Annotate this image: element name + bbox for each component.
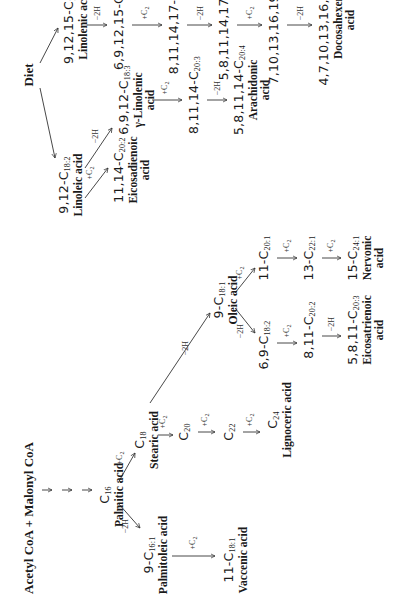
- title-acetyl-coa-malonyl-coa: Acetyl CoA + Malonyl CoA: [22, 442, 36, 594]
- node-c18-2o: 6,9-C18:2: [257, 320, 272, 369]
- acid-name-cont: acid: [139, 136, 151, 203]
- formula: 4,7,10,13,16,19-C22:6: [317, 0, 332, 86]
- formula: 8,11,14,17-C20:4: [167, 0, 182, 74]
- node-c20-2l: 11,14-C20:2Eicosadienoicacid: [112, 136, 152, 203]
- node-c18-4: 6,9,12,15-C18:4: [112, 0, 127, 70]
- formula: 15-C24:1: [346, 236, 361, 281]
- acid-name: Docosahexenoic: [332, 0, 344, 86]
- formula: 5,8,11,14,17-C20:5: [217, 0, 232, 80]
- formula: 11-C20:1: [257, 236, 272, 281]
- acid-name: Arachidonic: [247, 45, 259, 135]
- node-c18-3a: 9,12,15-C18:3Linolenic acid: [62, 0, 89, 64]
- reaction-arrow: [150, 313, 210, 403]
- formula: 6,9,12-C18:3: [117, 65, 132, 135]
- formula: C18: [133, 411, 148, 469]
- desaturation-label: −2H: [327, 317, 336, 331]
- elongation-label: +C2: [200, 414, 211, 427]
- formula: 9-C16:1: [142, 516, 157, 594]
- desaturation-label: −2H: [296, 6, 305, 20]
- node-c20-4: 8,11,14,17-C20:4: [167, 0, 182, 74]
- node-c18-1o: 9-C18:1Oleic acid: [212, 276, 239, 325]
- node-c18-3g: 6,9,12-C18:3γ-Linolenicacid: [117, 65, 157, 135]
- node-c22-1: 13-C22:1: [302, 236, 317, 281]
- formula: 11-C18:1: [222, 527, 237, 593]
- node-c20-5: 5,8,11,14,17-C20:5: [217, 0, 232, 80]
- formula: 9-C18:1: [212, 276, 227, 325]
- node-c20: C20: [177, 423, 192, 440]
- acid-name-cont: acid: [144, 65, 156, 135]
- acid-name: Palmitic acid: [113, 463, 125, 527]
- reaction-arrow: [40, 88, 55, 158]
- acid-name: Vaccenic acid: [237, 527, 249, 593]
- acid-name-cont: acid: [344, 0, 356, 86]
- desaturation-label: −2H: [213, 81, 222, 95]
- acid-name-cont: acid: [373, 236, 385, 281]
- node-c18-1v: 11-C18:1Vaccenic acid: [222, 527, 249, 593]
- node-c16: C16Palmitic acid: [98, 463, 125, 527]
- node-c24-1: 15-C24:1Nervonicacid: [346, 236, 386, 281]
- formula: C24: [266, 382, 281, 458]
- formula: 9,12-C18:2: [57, 154, 72, 217]
- diet-source: Diet: [22, 63, 36, 86]
- elongation-label: +C2: [115, 452, 126, 465]
- fatty-acid-pathway-diagram: Acetyl CoA + Malonyl CoA Diet C16Palmiti…: [0, 0, 400, 598]
- node-c16-1: 9-C16:1Palmitoleic acid: [142, 516, 169, 594]
- elongation-label: +C2: [160, 82, 171, 95]
- node-c18: C18Stearic acid: [133, 411, 160, 469]
- acid-name: Oleic acid: [227, 276, 239, 325]
- desaturation-label: −2H: [121, 519, 130, 533]
- acid-name: Nervonic: [361, 236, 373, 281]
- formula: 6,9,12,15-C18:4: [112, 0, 127, 70]
- formula: 8,11,14-C20:3: [187, 56, 202, 134]
- formula: 5,8,11,14-C20:4: [232, 45, 247, 135]
- acid-name: Linolenic acid: [77, 0, 89, 64]
- elongation-label: +C2: [245, 7, 256, 20]
- elongation-label: +C2: [245, 414, 256, 427]
- desaturation-label: −2H: [196, 6, 205, 20]
- node-c22-5: 7,10,13,16,19-C22:5: [267, 0, 282, 84]
- acid-name-cont: acid: [373, 295, 385, 365]
- node-c22-6: 4,7,10,13,16,19-C22:6Docosahexenoicacid: [317, 0, 357, 86]
- desaturation-label: −2H: [93, 6, 102, 20]
- elongation-label: +C2: [326, 240, 337, 253]
- node-c20-2o: 8,11-C20:2: [302, 301, 317, 358]
- elongation-label: +C2: [282, 325, 293, 338]
- formula: C16: [98, 463, 113, 527]
- acid-name: Lignoceric acid: [281, 382, 293, 458]
- elongation-label: +C2: [85, 167, 96, 180]
- formula: 8,11-C20:2: [302, 301, 317, 358]
- elongation-label: +C2: [188, 537, 199, 550]
- formula: 7,10,13,16,19-C22:5: [267, 0, 282, 84]
- elongation-label: +C2: [282, 240, 293, 253]
- elongation-label: +C2: [140, 7, 151, 20]
- node-c20-1: 11-C20:1: [257, 236, 272, 281]
- acid-name: Eicosadienoic: [127, 136, 139, 203]
- formula: 11,14-C20:2: [112, 136, 127, 203]
- elongation-label: +C2: [235, 267, 246, 280]
- elongation-label: +C2: [158, 416, 169, 429]
- formula: C22: [222, 423, 237, 440]
- acid-name: γ-Linolenic: [132, 65, 144, 135]
- desaturation-label: −2H: [236, 324, 245, 338]
- acid-name: Eicosatrienoic: [361, 295, 373, 365]
- formula: 13-C22:1: [302, 236, 317, 281]
- desaturation-label: −2H: [181, 341, 190, 355]
- formula: 5,8,11-C20:3: [346, 295, 361, 365]
- node-c20-3l: 8,11,14-C20:3: [187, 56, 202, 134]
- node-c22: C22: [222, 423, 237, 440]
- formula: C20: [177, 423, 192, 440]
- desaturation-label: −2H: [91, 129, 100, 143]
- reaction-arrow: [40, 28, 58, 63]
- node-c24: C24Lignoceric acid: [266, 382, 293, 458]
- node-c20-3o: 5,8,11-C20:3Eicosatrienoicacid: [346, 295, 386, 365]
- acid-name: Palmitoleic acid: [157, 516, 169, 594]
- formula: 6,9-C18:2: [257, 320, 272, 369]
- acid-name: Linoleic acid: [72, 154, 84, 217]
- node-c18-2l: 9,12-C18:2Linoleic acid: [57, 154, 84, 217]
- formula: 9,12,15-C18:3: [62, 0, 77, 64]
